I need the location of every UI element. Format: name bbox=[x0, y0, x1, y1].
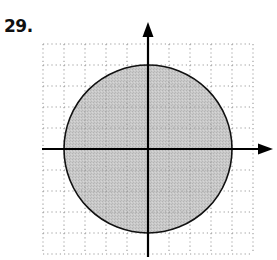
y-axis-arrow-icon bbox=[143, 22, 154, 37]
x-axis-arrow-icon bbox=[258, 144, 273, 155]
coordinate-plane-figure bbox=[0, 0, 277, 260]
